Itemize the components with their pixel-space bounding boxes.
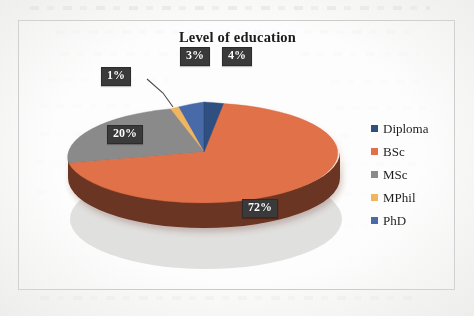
chart-title: Level of education <box>19 29 456 46</box>
legend-swatch-mphil-icon <box>371 194 378 201</box>
data-label-phd: 3% <box>180 47 210 66</box>
legend-item-mphil[interactable]: MPhil <box>371 190 453 205</box>
data-label-diploma: 4% <box>222 47 252 66</box>
mphil-leader-line <box>147 79 173 107</box>
legend-label-phd: PhD <box>383 213 406 229</box>
legend-item-phd[interactable]: PhD <box>371 213 453 228</box>
legend-item-bsc[interactable]: BSc <box>371 144 453 159</box>
chart-legend: Diploma BSc MSc MPhil PhD <box>371 121 453 236</box>
data-label-bsc: 72% <box>242 199 278 218</box>
legend-label-bsc: BSc <box>383 144 405 160</box>
data-label-mphil: 1% <box>101 67 131 86</box>
legend-swatch-msc-icon <box>371 171 378 178</box>
legend-swatch-phd-icon <box>371 217 378 224</box>
legend-label-msc: MSc <box>383 167 408 183</box>
pie-svg <box>59 59 349 279</box>
legend-swatch-diploma-icon <box>371 125 378 132</box>
chart-frame: Level of education <box>18 20 455 290</box>
legend-item-msc[interactable]: MSc <box>371 167 453 182</box>
legend-item-diploma[interactable]: Diploma <box>371 121 453 136</box>
pie-chart-plot-area: 1% 3% 4% 20% 72% <box>59 59 349 279</box>
legend-swatch-bsc-icon <box>371 148 378 155</box>
legend-label-mphil: MPhil <box>383 190 416 206</box>
data-label-msc: 20% <box>107 125 143 144</box>
legend-label-diploma: Diploma <box>383 121 429 137</box>
pie-3d: 1% 3% 4% 20% 72% <box>59 59 349 279</box>
